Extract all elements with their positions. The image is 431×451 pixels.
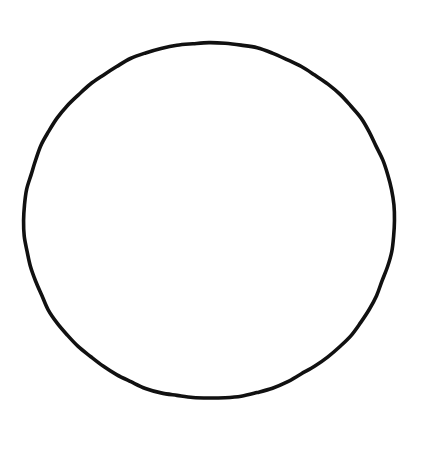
shape-layer	[0, 0, 431, 451]
canvas-background	[0, 0, 431, 451]
drawing-canvas	[0, 0, 431, 451]
